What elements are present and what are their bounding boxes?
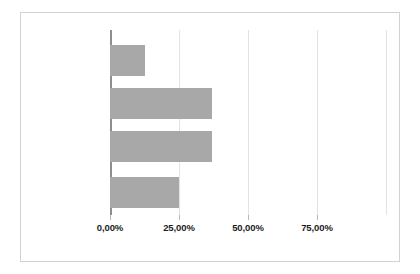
bar-row: Humanoidal movement <box>110 131 386 162</box>
bar-row: Algorithm <box>110 45 386 76</box>
bar-chart-figure: Algorithm Construction, design Humanoida… <box>0 0 420 274</box>
bar-innovative <box>110 177 179 208</box>
bar-humanoidal-movement <box>110 131 212 162</box>
tick-mark-50 <box>248 215 249 220</box>
x-tick-label-0: 0,00% <box>75 222 145 233</box>
x-tick-label-25: 25,00% <box>144 222 214 233</box>
x-tick-label-50: 50,00% <box>213 222 283 233</box>
gridline-100-percent <box>386 30 387 215</box>
x-tick-label-75: 75,00% <box>282 222 352 233</box>
bar-row: Innovative <box>110 177 386 208</box>
bar-algorithm <box>110 45 145 76</box>
tick-mark-0 <box>110 215 111 220</box>
tick-mark-75 <box>317 215 318 220</box>
bar-row: Construction, design <box>110 88 386 119</box>
bar-construction-design <box>110 88 212 119</box>
tick-mark-25 <box>179 215 180 220</box>
plot-area: Algorithm Construction, design Humanoida… <box>110 30 386 215</box>
